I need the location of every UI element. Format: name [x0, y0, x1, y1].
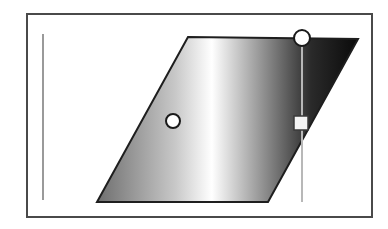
gradient-parallelogram — [97, 37, 358, 202]
gradient-start-handle-icon[interactable] — [166, 114, 180, 128]
gradient-angle-handle-icon[interactable] — [294, 30, 310, 46]
gradient-editor-canvas: Gradient editor preview: a parallelogram… — [0, 0, 388, 229]
gradient-end-handle-icon[interactable] — [294, 116, 308, 130]
gradient-preview — [0, 0, 388, 229]
